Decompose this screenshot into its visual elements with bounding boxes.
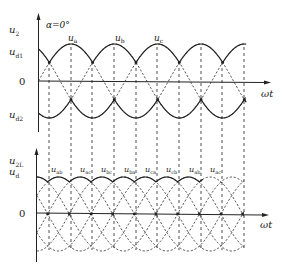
ud2-label: ud2	[9, 109, 23, 122]
top-y-axis-arrow-icon	[37, 13, 41, 20]
commutation-point	[200, 98, 203, 101]
ud1-envelope	[39, 44, 247, 63]
commutation-point	[70, 98, 73, 101]
line-label-ca: uca	[145, 165, 156, 175]
line-label-ab: uab	[189, 165, 200, 175]
ud1-label: ud1	[9, 46, 23, 59]
phase-label-b: ub	[115, 33, 125, 44]
alpha-label: α=0°	[46, 20, 70, 30]
line-label-ac: uac	[80, 165, 91, 175]
bottom-zero-label: 0	[19, 208, 25, 219]
top-x-axis	[39, 81, 266, 83]
commutation-point	[243, 98, 246, 101]
phase-label-a: ua	[68, 33, 78, 44]
line-label-bc: ubc	[101, 165, 112, 175]
ud2-envelope	[39, 100, 247, 119]
rectifier-waveform-diagram: u2 α=0° ud1 0 ud2 ωt ua ub uc u2L ud 0 ω…	[0, 0, 283, 277]
line-label-ab: uab	[51, 165, 62, 175]
bottom-x-axis-label: ωt	[260, 219, 273, 230]
bottom-y-axis-arrow-icon	[35, 148, 39, 155]
commutation-dashed-lines	[49, 47, 244, 250]
line-label-cb: ucb	[166, 165, 177, 175]
line-label-ac: uac	[210, 165, 221, 175]
top-x-axis-label: ωt	[261, 88, 274, 99]
ud-envelope	[37, 177, 203, 182]
line-label-ba: uba	[124, 165, 135, 175]
phase-label-c: uc	[154, 33, 164, 44]
commutation-point	[113, 98, 116, 101]
top-x-axis-arrow-icon	[264, 81, 271, 85]
top-zero-label: 0	[19, 76, 25, 87]
bottom-x-axis-arrow-icon	[262, 213, 269, 217]
commutation-point	[156, 98, 159, 101]
top-y-axis-label: u2	[9, 24, 19, 37]
